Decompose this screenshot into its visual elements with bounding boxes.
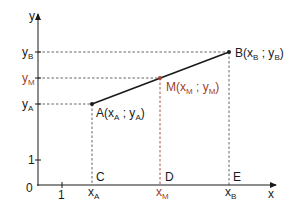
- x-tick-xM: xM: [156, 185, 169, 201]
- foot-label-E: E: [233, 170, 241, 184]
- point-A: [90, 102, 94, 106]
- y-tick-yB: yB: [22, 45, 33, 61]
- foot-label-D: D: [165, 170, 174, 184]
- y-tick-yA: yA: [22, 97, 34, 113]
- x-tick-xB: xB: [225, 185, 236, 201]
- point-B-label: B(xB ; yB): [235, 46, 284, 62]
- x-unit-label: 1: [58, 188, 65, 202]
- point-B: [227, 50, 231, 54]
- x-axis-label: x: [268, 187, 274, 201]
- coordinate-diagram: y x 0 1 1 yB yM yA xA xM xB C D E A(xA ;…: [0, 0, 294, 210]
- x-tick-xA: xA: [88, 185, 100, 201]
- point-A-label: A(xA ; yA): [96, 106, 145, 122]
- foot-label-C: C: [96, 170, 105, 184]
- origin-label: 0: [26, 181, 33, 195]
- y-unit-label: 1: [28, 153, 35, 167]
- point-M-label: M(xM ; yM): [166, 80, 219, 96]
- y-tick-yM: yM: [22, 71, 35, 87]
- point-M: [158, 76, 162, 80]
- y-axis-label: y: [29, 9, 35, 23]
- axis-ticks: [35, 52, 62, 188]
